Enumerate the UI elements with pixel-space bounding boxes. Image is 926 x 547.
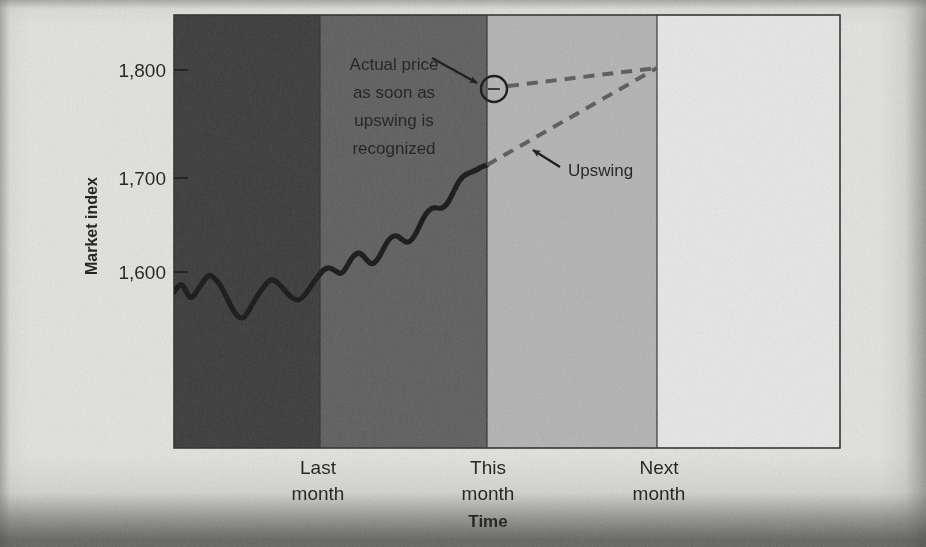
market-index-chart: 1,800 1,700 1,600 Market index Actual pr… — [0, 0, 926, 547]
ytick-label-1800: 1,800 — [118, 60, 166, 81]
xtick-last-month-line2: month — [292, 483, 345, 504]
xtick-this-month-line2: month — [462, 483, 515, 504]
x-axis-title: Time — [468, 512, 507, 531]
band-1-darkest — [174, 15, 320, 448]
upswing-label: Upswing — [568, 161, 633, 180]
figure-page: 1,800 1,700 1,600 Market index Actual pr… — [0, 0, 926, 547]
actual-price-line-2: as soon as — [353, 83, 435, 102]
actual-price-line-1: Actual price — [350, 55, 439, 74]
ytick-label-1600: 1,600 — [118, 262, 166, 283]
band-4-lightest — [657, 15, 840, 448]
xtick-next-month-line2: month — [633, 483, 686, 504]
ytick-label-1700: 1,700 — [118, 168, 166, 189]
actual-price-line-3: upswing is — [354, 111, 433, 130]
actual-price-line-4: recognized — [352, 139, 435, 158]
xtick-last-month-line1: Last — [300, 457, 337, 478]
xtick-this-month-line1: This — [470, 457, 506, 478]
y-axis-title: Market index — [83, 177, 100, 275]
xtick-next-month-line1: Next — [639, 457, 679, 478]
band-2-dark — [320, 15, 487, 448]
chart-bands — [174, 15, 840, 448]
x-tick-labels: Last month This month Next month — [292, 457, 686, 504]
